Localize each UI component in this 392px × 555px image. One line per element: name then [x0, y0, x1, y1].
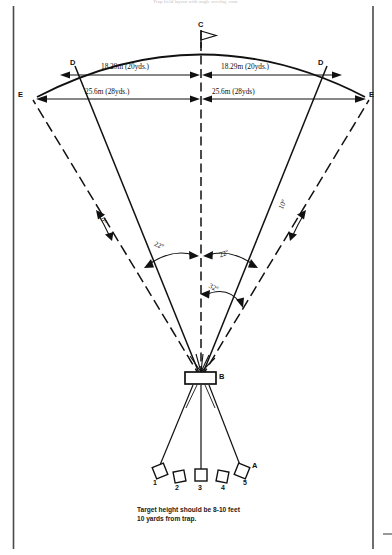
- diagram-page: Trap field layout with angle overlay, co…: [0, 0, 392, 555]
- boundary-line-right-32: [201, 100, 369, 378]
- trap-house-icon: [185, 372, 216, 384]
- dimension-label-bottom-left: 25.6m (28yds.): [85, 87, 129, 96]
- station-number-5: 5: [243, 479, 247, 486]
- station-number-1: 1: [153, 479, 157, 486]
- station-number-2: 2: [175, 484, 179, 491]
- boundary-line-left-22: [75, 66, 201, 378]
- dimension-label-bottom-right: 25.6m (28yds): [212, 87, 255, 96]
- dimension-line-bottom-left: [36, 95, 200, 103]
- angle-arc-right-22: [203, 251, 258, 268]
- angle-arc-left-22: [144, 251, 199, 268]
- dimension-line-bottom-right: [202, 95, 366, 103]
- boundary-line-left-32: [33, 100, 201, 378]
- boundary-line-right-22: [201, 66, 327, 378]
- dimension-label-top-left: 18.29m (20yds.): [101, 62, 149, 71]
- trap-emission-lines: [190, 354, 215, 372]
- station-connector-lines: [160, 385, 240, 469]
- dimension-label-top-right: 18.29m (20yds.): [221, 62, 269, 71]
- station-pad-1[interactable]: [152, 463, 168, 479]
- caption-line-2: 10 yards from trap.: [137, 515, 196, 524]
- trap-field-diagram: [0, 0, 392, 555]
- flag-icon: [201, 30, 216, 48]
- station-pad-4[interactable]: [216, 470, 229, 483]
- point-label-d-right: D: [318, 58, 323, 67]
- caption-line-1: Target height should be 8-10 feet: [137, 506, 240, 515]
- station-number-4: 4: [221, 484, 225, 491]
- point-label-b: B: [219, 372, 224, 381]
- angle-arc-right-32: [200, 290, 244, 308]
- point-label-d-left: D: [70, 58, 75, 67]
- angle-arc-right-10: [289, 210, 307, 241]
- point-label-a: A: [252, 461, 257, 470]
- station-pad-2[interactable]: [173, 470, 186, 483]
- point-label-e-right: E: [369, 90, 374, 99]
- point-label-c: C: [198, 20, 203, 29]
- point-label-e-left: E: [18, 90, 23, 99]
- station-number-3: 3: [198, 484, 202, 491]
- station-pad-5[interactable]: [234, 463, 250, 479]
- station-pad-3[interactable]: [195, 469, 207, 481]
